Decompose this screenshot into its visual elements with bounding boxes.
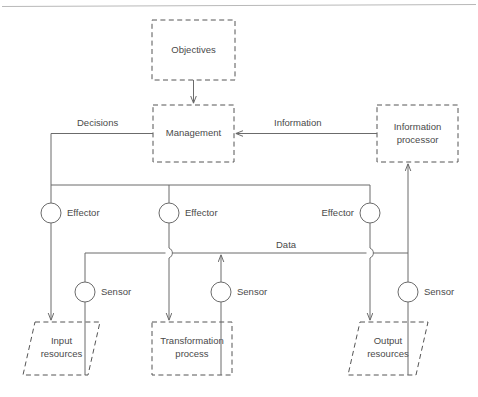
effector-3-label: Effector — [321, 207, 354, 218]
node-information-processor-label-line1: Information — [394, 121, 442, 132]
sensor-1-icon — [75, 282, 95, 302]
diagram-svg: Objectives Management Information proces… — [0, 0, 478, 397]
diagram-canvas: Objectives Management Information proces… — [0, 0, 478, 397]
edge-effector-3-to-output-resources — [370, 223, 373, 320]
node-input-resources-label-line2: resources — [41, 348, 83, 359]
edge-decisions-bus — [51, 134, 370, 186]
decisions-label: Decisions — [77, 117, 118, 128]
effector-1-label: Effector — [67, 207, 100, 218]
node-output-resources-label-line1: Output — [374, 335, 403, 346]
node-management-label: Management — [166, 127, 222, 138]
effector-2-label: Effector — [185, 207, 218, 218]
edge-effector-2-to-transformation-process — [169, 223, 172, 320]
node-input-resources-label-line1: Input — [51, 335, 72, 346]
effector-2-icon — [159, 203, 179, 223]
sensor-3-icon — [398, 282, 418, 302]
information-label: Information — [274, 117, 322, 128]
data-label: Data — [276, 239, 297, 250]
node-transformation-process-label-line2: process — [175, 348, 209, 359]
effector-1-icon — [41, 203, 61, 223]
node-objectives-label: Objectives — [171, 44, 216, 55]
effector-3-icon — [360, 203, 380, 223]
node-transformation-process-label-line1: Transformation — [160, 335, 224, 346]
sensor-3-label: Sensor — [424, 286, 454, 297]
sensor-1-label: Sensor — [101, 286, 131, 297]
top-divider — [2, 5, 476, 7]
node-information-processor-label-line2: processor — [397, 134, 439, 145]
sensor-2-icon — [211, 282, 231, 302]
node-output-resources-label-line2: resources — [367, 348, 409, 359]
sensor-2-label: Sensor — [237, 286, 267, 297]
